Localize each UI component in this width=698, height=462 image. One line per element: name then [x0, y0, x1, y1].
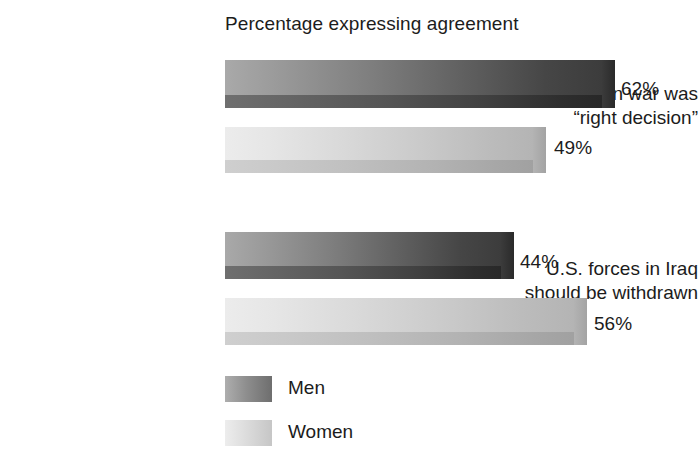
legend-label-men: Men: [288, 377, 325, 399]
bar-afghanistan-women: [225, 127, 546, 173]
bar-base-face: [225, 95, 615, 108]
bar-base-face: [225, 266, 514, 279]
legend-label-women: Women: [288, 421, 353, 443]
bar-end-cap: [533, 127, 546, 173]
bar-base-face: [225, 160, 546, 173]
value-label-afghanistan-women: 49%: [554, 137, 592, 159]
bar-end-cap: [574, 298, 587, 345]
bar-chart: Percentage expressing agreement Afghanis…: [0, 0, 698, 462]
bar-base-face: [225, 332, 587, 345]
category-label-line-1: U.S. forces in Iraq: [546, 258, 698, 279]
value-label-iraq-men: 44%: [520, 251, 558, 273]
bar-top-face: [225, 232, 501, 266]
chart-title: Percentage expressing agreement: [225, 13, 519, 35]
bar-top-face: [225, 127, 533, 160]
legend-swatch-men: [225, 376, 272, 402]
value-label-afghanistan-men: 62%: [621, 78, 659, 100]
bar-iraq-women: [225, 298, 587, 345]
value-label-iraq-women: 56%: [594, 313, 632, 335]
legend-swatch-women: [225, 420, 272, 446]
bar-afghanistan-men: [225, 60, 615, 108]
bar-end-cap: [602, 60, 615, 108]
bar-top-face: [225, 60, 602, 95]
bar-end-cap: [501, 232, 514, 279]
bar-top-face: [225, 298, 574, 332]
bar-iraq-men: [225, 232, 514, 279]
